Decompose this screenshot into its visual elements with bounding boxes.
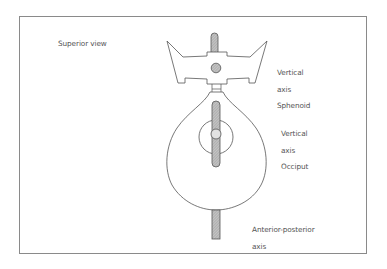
anterior-posterior-axis-rod bbox=[212, 210, 220, 239]
occiput-axis-label: Vertical axis Occiput bbox=[281, 122, 308, 180]
occiput-label-line3: Occiput bbox=[281, 163, 308, 171]
occiput-label-line1: Vertical bbox=[281, 130, 308, 138]
ap-axis-label: Anterior-posterior axis bbox=[252, 218, 315, 259]
sphenoid-label-line1: Vertical bbox=[277, 69, 310, 77]
sphenoid-axis-label: Vertical axis Sphenoid bbox=[277, 61, 310, 119]
ap-label-line1: Anterior-posterior bbox=[252, 226, 315, 234]
occiput-label-line2: axis bbox=[281, 147, 308, 155]
sphenoid-label-line2: axis bbox=[277, 86, 310, 94]
occiput-pivot bbox=[211, 129, 221, 139]
sphenoid-label-line3: Sphenoid bbox=[277, 102, 310, 110]
ap-label-line2: axis bbox=[252, 243, 315, 251]
superior-view-label: Superior view bbox=[58, 40, 107, 48]
sphenoid-pivot bbox=[211, 63, 221, 73]
sphenobasilar-junction bbox=[212, 84, 221, 92]
